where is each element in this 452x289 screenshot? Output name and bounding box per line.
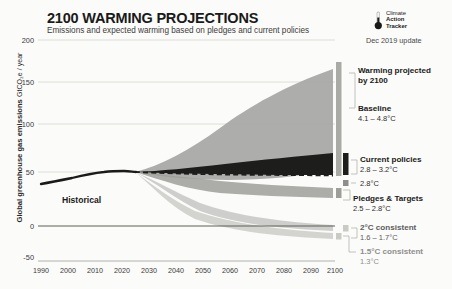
marker-1-5c [336,233,342,240]
legend-item-baseline[interactable]: Baseline 4.1 – 4.8°C [358,104,396,123]
x-tick-2080: 2080 [269,266,299,275]
legend-item-1-5c-consistent-label: 1.5°C consistent [360,247,423,257]
legend-item-pledges-targets-label: Pledges & Targets [353,194,423,204]
x-tick-2020: 2020 [107,266,137,275]
chart-root: 2100 WARMING PROJECTIONS Emissions and e… [0,0,452,289]
historical-label: Historical [62,195,101,205]
legend-item-2c-consistent[interactable]: 2°C consistent 1.6 – 1.7°C [360,223,416,242]
x-tick-2050: 2050 [188,266,218,275]
plot-area: 200 150 100 50 0 -50 1990 2000 2010 2020… [0,0,452,289]
legend-item-pledges-targets[interactable]: Pledges & Targets 2.5 – 2.8°C [353,194,423,213]
marker-baseline [336,62,342,176]
legend-item-1-5c-consistent-value: 1.3°C [360,257,423,266]
marker-2c [343,225,349,232]
legend-item-current-policies-label: Current policies [360,155,422,165]
marker-pledges [336,188,342,198]
y-tick-50: 50 [12,168,34,177]
line-historical [41,171,136,184]
legend-item-current-policies-value: 2.8 – 3.2°C [360,165,422,174]
x-tick-2040: 2040 [161,266,191,275]
legend-item-baseline-value: 4.1 – 4.8°C [358,114,396,123]
marker-2-8c [343,180,349,186]
x-tick-2010: 2010 [80,266,110,275]
y-tick-200: 200 [12,36,34,45]
x-tick-2030: 2030 [134,266,164,275]
legend-item-current-policies[interactable]: Current policies 2.8 – 3.2°C [360,155,422,174]
endpoint-markers [336,62,349,240]
x-tick-2100: 2100 [320,266,350,275]
legend-heading-line2: by 2100 [358,76,431,86]
x-tick-2070: 2070 [242,266,272,275]
legend-item-pledges-targets-value: 2.5 – 2.8°C [353,204,423,213]
y-tick-100: 100 [12,120,34,129]
legend-item-2c-consistent-value: 1.6 – 1.7°C [360,233,416,242]
x-tick-2060: 2060 [215,266,245,275]
legend-item-1-5c-consistent[interactable]: 1.5°C consistent 1.3°C [360,247,423,266]
y-tick-0: 0 [12,222,34,231]
y-tick-150: 150 [12,78,34,87]
y-tick-neg50: -50 [12,253,34,262]
legend-heading-line1: Warming projected [358,66,431,76]
x-tick-1990: 1990 [26,266,56,275]
marker-current-policies [343,153,349,175]
legend-item-baseline-label: Baseline [358,104,396,114]
legend-heading: Warming projected by 2100 [358,66,431,85]
legend-item-2-8c-value: 2.8°C [360,179,379,188]
x-tick-2000: 2000 [53,266,83,275]
legend-item-2-8c[interactable]: 2.8°C [360,179,379,188]
legend-item-2c-consistent-label: 2°C consistent [360,223,416,233]
